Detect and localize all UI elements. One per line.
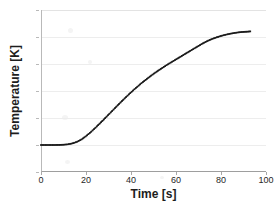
temperature-time-chart: Temperature [K] 1800 1500 1200 900 600 3… (0, 0, 280, 205)
series-line (41, 31, 250, 145)
temperature-series (40, 31, 251, 146)
data-point-marker (249, 31, 251, 33)
series-layer (0, 0, 280, 205)
